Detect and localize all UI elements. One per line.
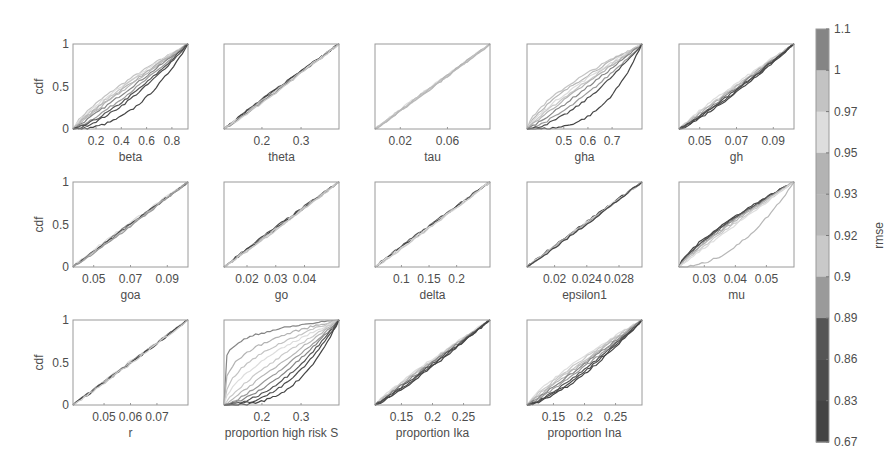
subplot-gh: 0.050.070.09gh bbox=[679, 44, 794, 164]
x-tick-label: 0.024 bbox=[572, 272, 602, 286]
colorbar-tick-label: 0.95 bbox=[834, 146, 858, 160]
x-tick-label: 0.05 bbox=[755, 272, 779, 286]
colorbar-band bbox=[816, 318, 829, 360]
x-tick-label: 0.25 bbox=[604, 410, 628, 424]
x-tick-label: 0.03 bbox=[693, 272, 717, 286]
subplot-goa: 0.050.070.09goa00.51cdf bbox=[32, 175, 188, 302]
x-tick-label: 0.07 bbox=[145, 410, 169, 424]
x-tick-label: 0.1 bbox=[393, 272, 410, 286]
cdf-line bbox=[679, 44, 794, 129]
colorbar-tick-label: 1 bbox=[834, 63, 841, 77]
x-tick-label: 0.3 bbox=[293, 410, 310, 424]
cdf-curves bbox=[527, 320, 642, 405]
subplot-proportion-high-risk-S: 0.20.3proportion high risk S bbox=[224, 320, 339, 440]
x-tick-label: 0.25 bbox=[452, 410, 476, 424]
x-tick-label: 0.028 bbox=[604, 272, 634, 286]
x-tick-label: 0.2 bbox=[254, 410, 271, 424]
rmse-colorbar: 1.110.970.950.930.920.90.890.860.830.67r… bbox=[816, 22, 886, 449]
colorbar-label: rmse bbox=[872, 222, 886, 249]
x-tick-label: 0.02 bbox=[389, 134, 413, 148]
x-tick-label: 0.05 bbox=[92, 410, 116, 424]
colorbar-tick-label: 0.93 bbox=[834, 187, 858, 201]
subplot-gha: 0.50.60.7gha bbox=[527, 44, 642, 164]
x-tick-label: 0.6 bbox=[138, 134, 155, 148]
colorbar-tick-label: 0.86 bbox=[834, 352, 858, 366]
subplot-delta: 0.10.150.2delta bbox=[375, 182, 490, 302]
x-axis-label: gha bbox=[574, 150, 594, 164]
y-tick-label: 0.5 bbox=[52, 218, 69, 232]
subplot-theta: 0.20.3theta bbox=[224, 44, 339, 164]
x-tick-label: 0.03 bbox=[264, 272, 288, 286]
x-axis-label: tau bbox=[424, 150, 441, 164]
x-axis-label: r bbox=[129, 426, 133, 440]
x-tick-label: 0.2 bbox=[254, 134, 271, 148]
cdf-curves bbox=[73, 182, 188, 267]
x-tick-label: 0.04 bbox=[724, 272, 748, 286]
colorbar-tick-label: 0.67 bbox=[834, 435, 858, 449]
x-tick-label: 0.2 bbox=[88, 134, 105, 148]
x-tick-label: 0.07 bbox=[119, 272, 143, 286]
x-axis-label: gh bbox=[730, 150, 743, 164]
x-axis-label: proportion Ina bbox=[547, 426, 621, 440]
x-tick-label: 0.02 bbox=[235, 272, 259, 286]
x-axis-label: go bbox=[275, 288, 289, 302]
colorbar-tick-label: 0.92 bbox=[834, 229, 858, 243]
colorbar-band bbox=[816, 112, 829, 154]
cdf-curves bbox=[224, 320, 339, 405]
x-axis-label: beta bbox=[119, 150, 143, 164]
y-tick-label: 1 bbox=[62, 175, 69, 189]
x-tick-label: 0.3 bbox=[293, 134, 310, 148]
y-axis-label: cdf bbox=[32, 354, 46, 371]
x-tick-label: 0.06 bbox=[119, 410, 143, 424]
x-axis-label: epsilon1 bbox=[562, 288, 607, 302]
x-tick-label: 0.09 bbox=[762, 134, 786, 148]
colorbar-band bbox=[816, 194, 829, 236]
subplot-tau: 0.020.06tau bbox=[375, 44, 490, 164]
y-tick-label: 0 bbox=[62, 260, 69, 274]
subplot-mu: 0.030.040.05mu bbox=[679, 182, 794, 302]
x-axis-label: goa bbox=[120, 288, 140, 302]
x-axis-label: proportion high risk S bbox=[225, 426, 338, 440]
colorbar-band bbox=[816, 153, 829, 195]
colorbar-tick-label: 1.1 bbox=[834, 22, 851, 36]
cdf-line bbox=[527, 320, 642, 405]
colorbar-band bbox=[816, 277, 829, 319]
y-tick-label: 1 bbox=[62, 37, 69, 51]
subplot-proportion-Ina: 0.150.20.25proportion Ina bbox=[527, 320, 642, 440]
x-tick-label: 0.05 bbox=[82, 272, 106, 286]
x-axis-label: theta bbox=[268, 150, 295, 164]
x-tick-label: 0.8 bbox=[164, 134, 181, 148]
cdf-curves bbox=[375, 320, 490, 405]
cdf-curves bbox=[224, 44, 339, 129]
x-tick-label: 0.07 bbox=[725, 134, 749, 148]
cdf-curves bbox=[375, 182, 490, 267]
colorbar-band bbox=[816, 359, 829, 401]
cdf-curves bbox=[375, 44, 490, 129]
cdf-curves bbox=[679, 182, 794, 267]
x-tick-label: 0.5 bbox=[555, 134, 572, 148]
x-tick-label: 0.7 bbox=[604, 134, 621, 148]
x-axis-label: delta bbox=[419, 288, 445, 302]
colorbar-tick-label: 0.83 bbox=[834, 394, 858, 408]
colorbar-band bbox=[816, 236, 829, 278]
colorbar-tick-label: 0.89 bbox=[834, 311, 858, 325]
cdf-curves bbox=[679, 44, 794, 129]
colorbar-tick-label: 0.97 bbox=[834, 105, 858, 119]
y-tick-label: 0 bbox=[62, 122, 69, 136]
cdf-curves bbox=[73, 320, 188, 405]
cdf-line bbox=[527, 44, 642, 129]
x-tick-label: 0.15 bbox=[542, 410, 566, 424]
x-tick-label: 0.2 bbox=[448, 272, 465, 286]
cdf-curves bbox=[224, 182, 339, 267]
y-tick-label: 0.5 bbox=[52, 80, 69, 94]
cdf-curves bbox=[73, 44, 188, 129]
cdf-figure: 0.20.40.60.8beta00.51cdf0.20.3theta0.020… bbox=[0, 0, 895, 474]
x-tick-label: 0.2 bbox=[576, 410, 593, 424]
cdf-curves bbox=[527, 182, 642, 267]
colorbar-band bbox=[816, 29, 829, 71]
y-tick-label: 0 bbox=[62, 398, 69, 412]
x-tick-label: 0.06 bbox=[436, 134, 460, 148]
subplot-epsilon1: 0.020.0240.028epsilon1 bbox=[527, 182, 642, 302]
y-tick-label: 0.5 bbox=[52, 356, 69, 370]
cdf-curves bbox=[527, 44, 642, 129]
